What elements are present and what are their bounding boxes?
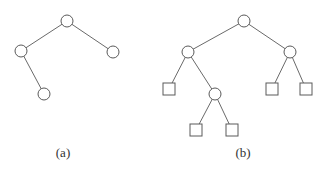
tree-edge xyxy=(21,21,67,51)
tree-edge xyxy=(188,52,215,94)
edges-layer xyxy=(21,21,306,130)
internal-node-circle xyxy=(182,46,194,58)
external-node-square xyxy=(190,124,202,136)
external-node-square xyxy=(163,83,175,95)
tree-edge xyxy=(244,21,290,52)
internal-node-circle xyxy=(284,46,296,58)
internal-node-circle xyxy=(209,88,221,100)
tree-edge xyxy=(67,21,113,52)
tree-edge xyxy=(188,21,244,52)
caption-a: (a) xyxy=(56,145,70,161)
internal-node-circle xyxy=(15,45,27,57)
internal-node-circle xyxy=(61,15,73,27)
external-node-square xyxy=(300,83,312,95)
external-node-square xyxy=(266,83,278,95)
internal-node-circle xyxy=(238,15,250,27)
external-node-square xyxy=(226,124,238,136)
binary-tree-diagram xyxy=(0,0,322,171)
tree-edge xyxy=(21,51,44,94)
nodes-layer xyxy=(15,15,312,136)
caption-b: (b) xyxy=(235,145,250,161)
internal-node-circle xyxy=(38,88,50,100)
internal-node-circle xyxy=(107,46,119,58)
